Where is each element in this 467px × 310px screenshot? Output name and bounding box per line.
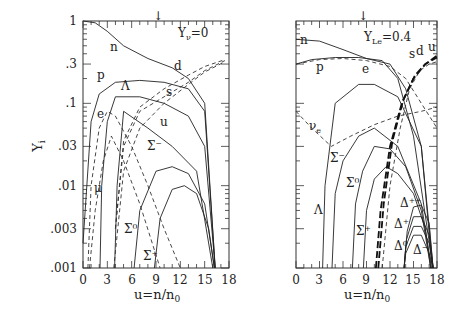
label-lambda: Λ — [313, 203, 323, 217]
label-sigma-minus: Σ⁻ — [330, 151, 345, 165]
x-tick-6: 6 — [339, 273, 347, 287]
x-tick-0: 0 — [79, 273, 87, 287]
label-d: d — [416, 44, 424, 58]
label-sigma-zero: Σ⁰ — [124, 222, 137, 236]
x-tick-15: 15 — [405, 273, 420, 287]
y-tick-1: 1 — [69, 14, 77, 28]
y-tick-0.01: .01 — [58, 179, 77, 193]
label-mu: μ — [94, 181, 102, 195]
left-y-tick-labels: 1 .3 .1 .03 .01 .003 .001 — [50, 14, 77, 275]
y-tick-0.3: .3 — [66, 57, 77, 71]
label-u: u — [160, 115, 168, 129]
x-tick-0: 0 — [292, 273, 300, 287]
y-axis-title: Yi — [30, 140, 47, 153]
y-tick-0.003: .003 — [50, 222, 77, 236]
label-sigma-plus: Σ⁺ — [143, 249, 158, 263]
x-tick-12: 12 — [172, 273, 187, 287]
label-s: s — [409, 47, 415, 61]
figure: 1 .3 .1 .03 .01 .003 .001 0 3 6 9 12 15 … — [0, 0, 467, 310]
label-n: n — [300, 33, 308, 47]
label-delta-0: Δ⁰ — [394, 239, 408, 253]
right-x-axis-title: u=n/n0 — [344, 287, 390, 304]
label-sigma-minus: Σ⁻ — [147, 139, 162, 153]
label-delta-p: Δ⁺ — [394, 217, 409, 231]
label-nu-e: νe — [309, 119, 321, 135]
right-annotation: YLe=0.4 — [363, 30, 411, 46]
label-s: s — [166, 85, 172, 99]
label-p: p — [97, 68, 105, 82]
x-tick-9: 9 — [362, 273, 370, 287]
label-p: p — [316, 60, 324, 74]
y-tick-0.001: .001 — [50, 261, 77, 275]
y-tick-0.1: .1 — [66, 96, 77, 110]
x-tick-15: 15 — [197, 273, 212, 287]
label-e: e — [362, 62, 369, 76]
x-tick-18: 18 — [429, 273, 444, 287]
label-sigma-zero: Σ⁰ — [346, 176, 359, 190]
label-u: u — [428, 40, 436, 54]
label-e: e — [97, 107, 104, 121]
x-tick-18: 18 — [221, 273, 236, 287]
label-d: d — [174, 59, 182, 73]
x-tick-3: 3 — [103, 273, 111, 287]
x-tick-12: 12 — [382, 273, 397, 287]
label-delta-m: Δ⁻ — [413, 243, 428, 257]
label-sigma-plus: Σ⁺ — [356, 224, 371, 238]
y-tick-0.03: .03 — [58, 139, 77, 153]
x-tick-6: 6 — [128, 273, 136, 287]
right-x-tick-labels: 0 3 6 9 12 15 18 — [292, 273, 444, 287]
left-x-tick-labels: 0 3 6 9 12 15 18 — [79, 273, 236, 287]
label-lambda: Λ — [120, 79, 130, 93]
density-marker-arrow-icon: ↓ — [153, 9, 163, 23]
left-x-axis-title: u=n/n0 — [134, 287, 180, 304]
label-delta-pp: Δ⁺⁺ — [400, 196, 421, 210]
x-tick-3: 3 — [315, 273, 323, 287]
left-annotation: Yν=0 — [177, 26, 209, 42]
x-tick-9: 9 — [152, 273, 160, 287]
label-n: n — [110, 40, 118, 54]
density-marker-arrow-icon: ↓ — [358, 9, 368, 23]
